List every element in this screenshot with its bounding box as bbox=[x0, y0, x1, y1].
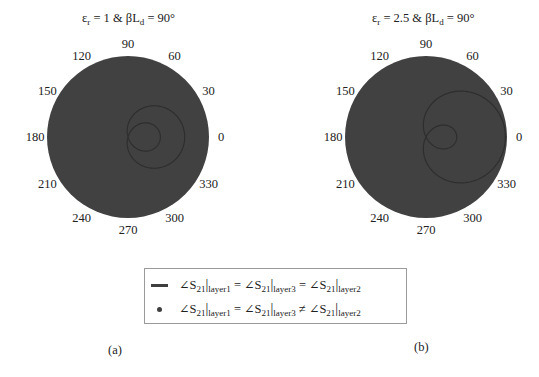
polar-plot-b: εr = 2.5 & βLd = 90° 0306090120150180210… bbox=[0, 0, 270, 240]
caption-b: (b) bbox=[414, 340, 429, 355]
plot-title-b: εr = 2.5 & βLd = 90° bbox=[372, 11, 474, 27]
legend: ∠S21|layer1 = ∠S21|layer3 = ∠S21|layer2 … bbox=[144, 268, 407, 324]
legend-label-not-equal: ∠S21|layer1 = ∠S21|layer3 ≠ ∠S21|layer2 bbox=[179, 301, 361, 318]
angle-tick-270: 270 bbox=[417, 223, 436, 238]
legend-item-line: ∠S21|layer1 = ∠S21|layer3 = ∠S21|layer2 bbox=[145, 273, 406, 297]
angle-tick-300: 300 bbox=[463, 210, 482, 225]
angle-tick-210: 210 bbox=[336, 176, 355, 191]
angle-tick-330: 330 bbox=[497, 176, 516, 191]
angle-tick-150: 150 bbox=[336, 83, 355, 98]
angle-tick-60: 60 bbox=[466, 49, 479, 64]
solid-line-marker-icon bbox=[151, 284, 168, 287]
angle-tick-120: 120 bbox=[370, 49, 389, 64]
caption-a: (a) bbox=[108, 343, 122, 358]
angle-tick-0: 0 bbox=[516, 130, 522, 145]
legend-item-dot: ∠S21|layer1 = ∠S21|layer3 ≠ ∠S21|layer2 bbox=[145, 297, 406, 321]
angle-tick-90: 90 bbox=[420, 37, 433, 52]
angle-tick-180: 180 bbox=[324, 130, 343, 145]
polar-chart-b bbox=[0, 0, 539, 240]
angle-tick-30: 30 bbox=[500, 83, 513, 98]
legend-label-equal: ∠S21|layer1 = ∠S21|layer3 = ∠S21|layer2 bbox=[179, 277, 361, 294]
angle-tick-240: 240 bbox=[370, 210, 389, 225]
dot-marker-icon bbox=[157, 307, 162, 312]
